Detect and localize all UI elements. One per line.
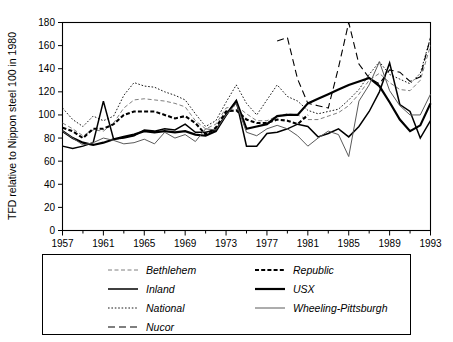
- y-tick-label: 80: [44, 133, 56, 144]
- x-tick-label: 1985: [338, 238, 361, 249]
- x-tick-label: 1973: [215, 238, 238, 249]
- legend-label-national: National: [146, 302, 185, 314]
- legend-label-republic: Republic: [293, 264, 335, 276]
- x-tick-label: 1989: [378, 238, 401, 249]
- legend-label-usx: USX: [293, 283, 316, 295]
- x-tick-label: 1969: [174, 238, 197, 249]
- x-tick-label: 1957: [51, 238, 74, 249]
- x-tick-label: 1961: [92, 238, 115, 249]
- figure-background: [0, 0, 453, 342]
- y-tick-label: 120: [38, 86, 55, 97]
- y-tick-label: 60: [44, 156, 56, 167]
- x-tick-label: 1965: [133, 238, 156, 249]
- y-axis-label: TFD relative to Nippon steel 100 in 1980: [6, 32, 18, 220]
- y-tick-label: 180: [38, 17, 55, 28]
- x-tick-label: 1993: [419, 238, 442, 249]
- legend-label-wheeling-pittsburgh: Wheeling-Pittsburgh: [293, 302, 388, 314]
- legend-label-bethlehem: Bethlehem: [146, 264, 196, 276]
- y-tick-label: 20: [44, 202, 56, 213]
- y-tick-label: 140: [38, 63, 55, 74]
- chart-figure: TFD relative to Nippon steel 100 in 1980…: [0, 0, 453, 342]
- legend-label-nucor: Nucor: [146, 321, 175, 333]
- legend-label-inland: Inland: [146, 283, 176, 295]
- x-tick-label: 1981: [297, 238, 320, 249]
- y-tick-label: 0: [49, 225, 55, 236]
- y-tick-label: 40: [44, 179, 56, 190]
- x-tick-label: 1977: [256, 238, 279, 249]
- y-tick-label: 160: [38, 40, 55, 51]
- y-tick-label: 100: [38, 109, 55, 120]
